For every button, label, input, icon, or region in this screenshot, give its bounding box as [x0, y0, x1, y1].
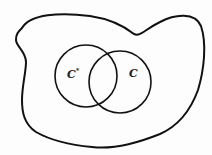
outer-region — [16, 14, 204, 147]
diagram: C* C — [0, 0, 212, 155]
diagram-canvas — [0, 0, 212, 155]
left-circle-label: C* — [67, 66, 79, 81]
right-circle-label: C — [129, 67, 138, 80]
right-circle — [89, 51, 151, 113]
